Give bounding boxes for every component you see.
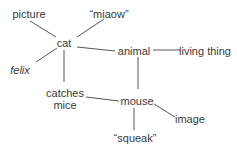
semantic-network-diagram: picture“miaow”catanimalliving thingfelix… [0, 0, 237, 150]
node-felix: felix [10, 65, 30, 76]
edge-cat-felix [36, 48, 57, 62]
node-cat: cat [57, 38, 72, 49]
edge-cat-animal [77, 47, 115, 51]
edge-catches-mice-mouse [86, 97, 119, 101]
node-image: image [175, 114, 205, 125]
node-miaow: “miaow” [89, 9, 128, 20]
edges-layer [0, 0, 237, 150]
node-picture: picture [12, 9, 45, 20]
edge-picture-cat [30, 21, 56, 37]
node-squeak: “squeak” [114, 133, 157, 144]
node-catches-mice: catches mice [46, 87, 84, 111]
edge-mouse-image [154, 104, 175, 117]
node-living-thing: living thing [179, 46, 231, 57]
node-mouse: mouse [120, 96, 153, 107]
edge-miaow-cat [77, 19, 104, 37]
node-animal: animal [118, 46, 150, 57]
